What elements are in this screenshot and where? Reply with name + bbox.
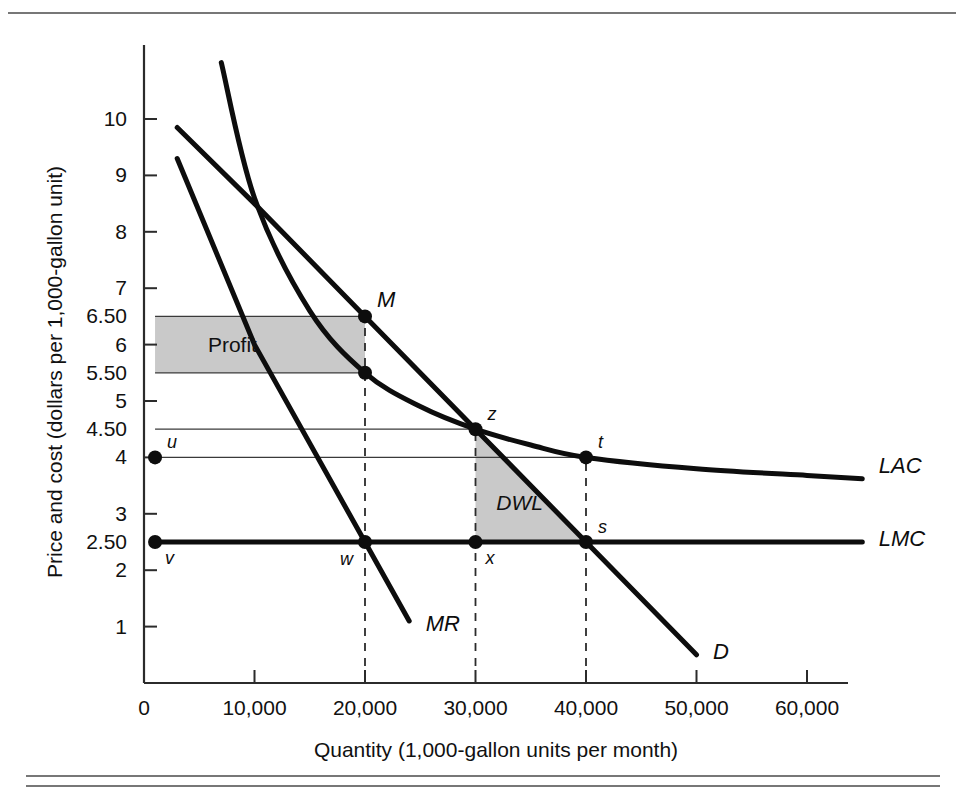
- point-label-v: v: [165, 548, 175, 568]
- natural-monopoly-chart: 122.50344.5055.5066.5078910 010,00020,00…: [0, 0, 964, 803]
- point-marker-w: [358, 535, 372, 549]
- point-label-s: s: [598, 517, 607, 537]
- curves: [155, 63, 862, 655]
- x-axis-title: Quantity (1,000-gallon units per month): [314, 738, 678, 761]
- point-label-z: z: [487, 404, 497, 424]
- figure-container: 122.50344.5055.5066.5078910 010,00020,00…: [0, 0, 964, 803]
- curve-label-d: D: [713, 639, 729, 664]
- x-axis-ticks: 010,00020,00030,00040,00050,00060,000: [138, 670, 839, 719]
- y-tick-label-2.50: 2.50: [86, 530, 127, 553]
- x-tick-label-0: 0: [138, 696, 150, 719]
- y-tick-label-7: 7: [115, 276, 127, 299]
- x-tick-label-30,000: 30,000: [443, 696, 507, 719]
- curve-label-mr: MR: [426, 611, 460, 636]
- y-axis-ticks: 122.50344.5055.5066.5078910: [86, 107, 157, 638]
- marginal-revenue-curve: [177, 159, 409, 622]
- x-tick-label-20,000: 20,000: [333, 696, 397, 719]
- y-tick-label-2: 2: [115, 558, 127, 581]
- point-marker-z: [469, 422, 483, 436]
- y-tick-label-6: 6: [115, 333, 127, 356]
- y-tick-label-8: 8: [115, 220, 127, 243]
- y-tick-label-4: 4: [115, 445, 127, 468]
- y-tick-label-10: 10: [104, 107, 127, 130]
- point-label-x: x: [485, 548, 496, 568]
- point-marker-u: [148, 450, 162, 464]
- y-tick-label-3: 3: [115, 502, 127, 525]
- y-tick-label-5: 5: [115, 389, 127, 412]
- dwl-label: DWL: [496, 491, 543, 514]
- demand-curve: [177, 128, 696, 655]
- point-label-t: t: [598, 432, 604, 452]
- profit-label: Profit: [208, 333, 257, 356]
- y-tick-label-4.50: 4.50: [86, 417, 127, 440]
- point-marker-x: [469, 535, 483, 549]
- point-label-w: w: [340, 549, 354, 569]
- x-tick-label-40,000: 40,000: [554, 696, 618, 719]
- x-tick-label-50,000: 50,000: [664, 696, 728, 719]
- y-axis-title: Price and cost (dollars per 1,000-gallon…: [43, 166, 66, 578]
- curve-label-lac: LAC: [879, 453, 922, 478]
- y-tick-label-5.50: 5.50: [86, 361, 127, 384]
- x-tick-label-60,000: 60,000: [775, 696, 839, 719]
- x-tick-label-10,000: 10,000: [222, 696, 286, 719]
- y-tick-label-1: 1: [115, 615, 127, 638]
- point-marker-M: [358, 309, 372, 323]
- point-marker-t: [579, 450, 593, 464]
- y-tick-label-6.50: 6.50: [86, 304, 127, 327]
- point-marker-s: [579, 535, 593, 549]
- point-marker-lac20: [358, 366, 372, 380]
- y-tick-label-9: 9: [115, 163, 127, 186]
- point-label-u: u: [167, 432, 177, 452]
- axes: 122.50344.5055.5066.5078910 010,00020,00…: [86, 45, 848, 719]
- point-label-M: M: [377, 287, 396, 312]
- curve-label-lmc: LMC: [879, 526, 926, 551]
- point-marker-v: [148, 535, 162, 549]
